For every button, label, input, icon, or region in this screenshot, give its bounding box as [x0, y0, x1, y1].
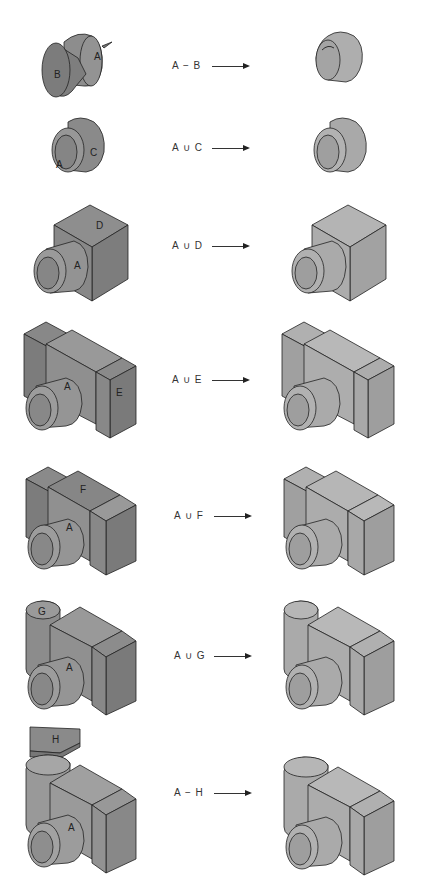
- label-g: G: [38, 606, 46, 617]
- input-solid-a-c: C A: [46, 116, 110, 178]
- arrow-icon: [214, 516, 250, 517]
- result-solid-a-d: [288, 205, 388, 305]
- label-b: B: [54, 69, 61, 80]
- label-e: E: [116, 387, 123, 398]
- label-a: A: [74, 260, 81, 271]
- input-solid-a-f: F A: [24, 457, 139, 577]
- input-solid-a-b: A B: [38, 28, 118, 103]
- arrow-icon: [212, 66, 248, 67]
- operation-label: A ∪ E: [172, 374, 202, 385]
- result-solid-a-c: [308, 116, 372, 178]
- row-a-union-c: C A A ∪ C: [0, 110, 421, 185]
- operation-label: A ∪ F: [174, 510, 204, 521]
- row-a-union-f: F A A ∪ F: [0, 455, 421, 580]
- arrow-icon: [214, 656, 250, 657]
- label-a: A: [56, 159, 63, 170]
- operation-label: A ∪ C: [172, 142, 203, 153]
- result-solid-a-g: [282, 597, 397, 717]
- label-a: A: [94, 51, 101, 62]
- label-a: A: [66, 522, 73, 533]
- label-h: H: [52, 734, 59, 745]
- result-solid-a-f: [282, 457, 397, 577]
- input-solid-a-g: G A: [24, 597, 139, 717]
- label-a: A: [68, 822, 75, 833]
- label-f: F: [80, 484, 86, 495]
- row-a-minus-b: A B A − B: [0, 0, 421, 110]
- row-a-union-d: D A A ∪ D: [0, 195, 421, 305]
- result-solid-a-e: [280, 320, 395, 440]
- label-d: D: [96, 220, 103, 231]
- operation-label: A − H: [174, 787, 204, 798]
- input-solid-a-h: H A: [24, 725, 144, 875]
- label-a: A: [64, 381, 71, 392]
- operation-label: A − B: [172, 60, 201, 71]
- input-solid-a-e: A E: [22, 320, 137, 440]
- operation-label: A ∪ D: [172, 240, 203, 251]
- row-a-union-e: A E A ∪ E: [0, 318, 421, 443]
- input-solid-a-d: D A: [30, 205, 130, 305]
- arrow-icon: [212, 148, 248, 149]
- operation-label: A ∪ G: [174, 650, 205, 661]
- result-solid-a-h: [282, 727, 402, 876]
- label-a: A: [66, 662, 73, 673]
- arrow-icon: [212, 246, 248, 247]
- label-c: C: [90, 147, 97, 158]
- arrow-icon: [214, 793, 250, 794]
- arrow-icon: [212, 380, 248, 381]
- row-a-minus-h: H A A − H: [0, 725, 421, 875]
- result-solid-a-b: [310, 30, 370, 90]
- row-a-union-g: G A A ∪ G: [0, 595, 421, 720]
